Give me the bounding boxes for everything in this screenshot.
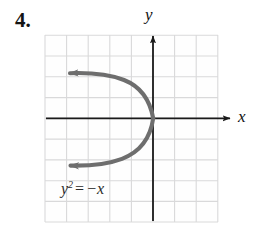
x-axis-label: x [238, 108, 246, 125]
equation-right-side: −x [86, 180, 104, 197]
graph-figure [0, 0, 266, 235]
y-axis-label: y [145, 6, 153, 23]
figure-page: 4. [0, 0, 266, 235]
equation-operator: = [73, 180, 86, 197]
equation-label: y2=−x [61, 181, 104, 197]
